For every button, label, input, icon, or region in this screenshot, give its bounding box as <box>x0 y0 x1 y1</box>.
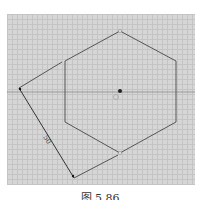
origin-icon <box>114 95 119 100</box>
arrow-icon <box>19 88 21 90</box>
dimension-line[interactable] <box>19 88 74 178</box>
vertex-point[interactable] <box>119 30 122 33</box>
dimension-value[interactable]: 50 <box>41 134 53 146</box>
center-point[interactable] <box>118 89 122 93</box>
vertex-point[interactable] <box>119 152 122 155</box>
extension-line <box>74 155 118 178</box>
sketch-drawing: 50 <box>0 0 200 200</box>
extension-line <box>19 62 62 88</box>
arrow-icon <box>72 175 74 177</box>
figure-caption: 图 5.86 <box>0 189 200 200</box>
